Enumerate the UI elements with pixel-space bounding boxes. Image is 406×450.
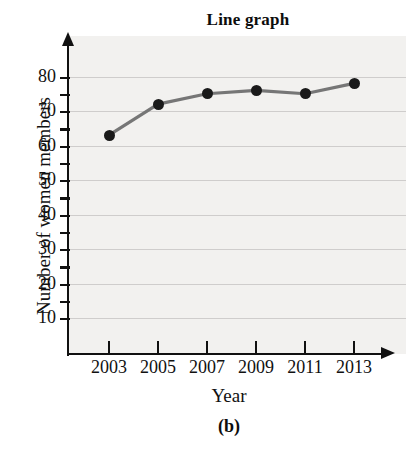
data-point-marker bbox=[251, 85, 262, 96]
y-minor-tick bbox=[60, 128, 70, 130]
x-axis-line bbox=[67, 353, 384, 355]
x-tick bbox=[206, 341, 208, 354]
data-point-marker bbox=[153, 99, 164, 110]
x-tick-label: 2013 bbox=[328, 357, 380, 378]
y-minor-tick bbox=[60, 94, 70, 96]
y-axis-label: Number of women members bbox=[33, 56, 55, 356]
gridline bbox=[69, 111, 406, 112]
x-tick bbox=[255, 341, 257, 354]
y-tick bbox=[60, 249, 70, 251]
y-minor-tick bbox=[60, 197, 70, 199]
gridline bbox=[69, 318, 406, 319]
data-point-marker bbox=[300, 88, 311, 99]
x-axis-label: Year bbox=[69, 385, 389, 407]
x-tick bbox=[304, 341, 306, 354]
gridline bbox=[69, 215, 406, 216]
y-tick bbox=[60, 284, 70, 286]
gridline bbox=[69, 284, 406, 285]
y-tick bbox=[60, 146, 70, 148]
data-point-marker bbox=[349, 78, 360, 89]
gridline bbox=[69, 249, 406, 250]
y-minor-tick bbox=[60, 232, 70, 234]
x-axis-arrow-icon bbox=[381, 347, 395, 359]
data-point-marker bbox=[202, 88, 213, 99]
line-graph-figure: Line graph 1020304050607080 200320052007… bbox=[0, 0, 406, 450]
data-point-marker bbox=[104, 130, 115, 141]
y-tick bbox=[60, 111, 70, 113]
gridline bbox=[69, 146, 406, 147]
gridline bbox=[69, 180, 406, 181]
y-axis-arrow-icon bbox=[62, 32, 74, 46]
x-tick-label: 2007 bbox=[181, 357, 233, 378]
y-minor-tick bbox=[60, 266, 70, 268]
y-tick bbox=[60, 215, 70, 217]
y-minor-tick bbox=[60, 163, 70, 165]
y-tick bbox=[60, 77, 70, 79]
x-tick bbox=[353, 341, 355, 354]
x-tick-label: 2009 bbox=[230, 357, 282, 378]
page-title: Line graph bbox=[0, 10, 406, 30]
x-tick bbox=[157, 341, 159, 354]
x-tick-label: 2005 bbox=[132, 357, 184, 378]
x-tick-label: 2011 bbox=[279, 357, 331, 378]
y-axis-line bbox=[67, 44, 69, 356]
x-tick bbox=[108, 341, 110, 354]
y-minor-tick bbox=[60, 301, 70, 303]
y-tick bbox=[60, 318, 70, 320]
y-tick bbox=[60, 180, 70, 182]
x-tick-label: 2003 bbox=[83, 357, 135, 378]
figure-caption: (b) bbox=[69, 416, 389, 437]
